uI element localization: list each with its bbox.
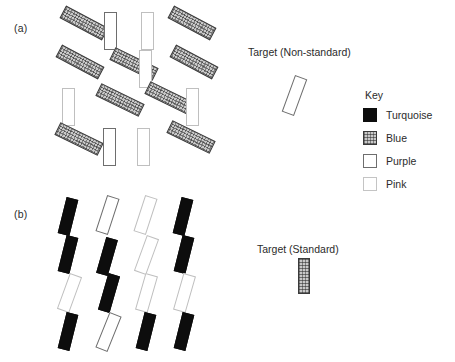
distractor-bar-pink xyxy=(137,128,150,166)
distractor-bar-pink xyxy=(62,88,75,126)
legend-item-pink: Pink xyxy=(363,175,432,193)
distractor-bar-turquoise xyxy=(174,235,195,274)
distractor-bar-pink xyxy=(173,273,196,313)
legend-label: Blue xyxy=(386,132,407,144)
distractor-bar-purple xyxy=(95,195,119,235)
distractor-bar-blue xyxy=(56,45,105,80)
panel-b-label: (b) xyxy=(14,208,27,220)
target-bar-blue xyxy=(298,258,310,294)
distractor-bar-turquoise xyxy=(136,312,157,351)
legend-label: Pink xyxy=(386,178,406,190)
distractor-bar-turquoise xyxy=(58,235,79,274)
legend-title: Key xyxy=(365,89,432,101)
distractor-bar-blue xyxy=(168,6,217,41)
legend-swatch-pink-icon xyxy=(363,177,377,191)
distractor-bar-turquoise xyxy=(174,312,195,351)
legend-swatch-blue-icon xyxy=(363,131,377,145)
legend-label: Purple xyxy=(386,155,416,167)
distractor-bar-blue xyxy=(170,45,219,80)
distractor-bar-pink xyxy=(133,195,157,235)
distractor-bar-purple xyxy=(95,312,121,352)
legend-item-purple: Purple xyxy=(363,152,432,170)
legend-label: Turquoise xyxy=(386,109,432,121)
legend-item-turquoise: Turquoise xyxy=(363,106,432,124)
distractor-bar-turquoise xyxy=(173,197,194,236)
legend-swatch-purple-icon xyxy=(363,154,377,168)
distractor-bar-purple xyxy=(104,12,117,50)
panel-a-label: (a) xyxy=(14,22,27,34)
distractor-bar-turquoise xyxy=(58,197,79,236)
legend-entries: TurquoiseBluePurplePink xyxy=(363,106,432,193)
distractor-bar-pink xyxy=(186,88,199,126)
distractor-bar-pink xyxy=(134,235,159,275)
distractor-bar-pink xyxy=(135,273,158,313)
distractor-bar-turquoise xyxy=(58,312,79,351)
legend: Key TurquoiseBluePurplePink xyxy=(363,89,432,198)
distractor-bar-turquoise xyxy=(96,237,118,276)
target-bar-purple xyxy=(282,75,308,116)
distractor-bar-pink xyxy=(141,12,154,50)
panel-a-target-label: Target (Non-standard) xyxy=(248,46,351,58)
distractor-bar-pink xyxy=(57,273,82,313)
panel-b-target-label: Target (Standard) xyxy=(257,243,339,255)
figure-canvas: (a) Target (Non-standard) (b) Target (St… xyxy=(0,0,455,362)
distractor-bar-turquoise xyxy=(98,273,120,313)
legend-item-blue: Blue xyxy=(363,129,432,147)
distractor-bar-blue xyxy=(54,122,103,156)
distractor-bar-blue xyxy=(95,83,144,117)
distractor-bar-blue xyxy=(60,6,109,41)
legend-swatch-turquoise-icon xyxy=(363,108,377,122)
distractor-bar-purple xyxy=(103,128,116,166)
